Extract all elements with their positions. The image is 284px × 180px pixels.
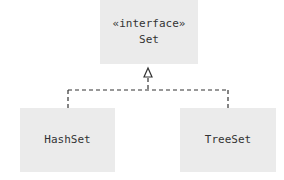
hollow-triangle-arrow-icon bbox=[144, 68, 152, 77]
interface-name: Set bbox=[139, 32, 159, 48]
class-name: HashSet bbox=[44, 132, 90, 148]
hashset-class-box[interactable]: HashSet bbox=[20, 108, 115, 172]
class-name: TreeSet bbox=[205, 132, 251, 148]
set-interface-box[interactable]: «interface» Set bbox=[100, 0, 198, 64]
interface-stereotype: «interface» bbox=[113, 16, 186, 32]
treeset-class-box[interactable]: TreeSet bbox=[180, 108, 276, 172]
